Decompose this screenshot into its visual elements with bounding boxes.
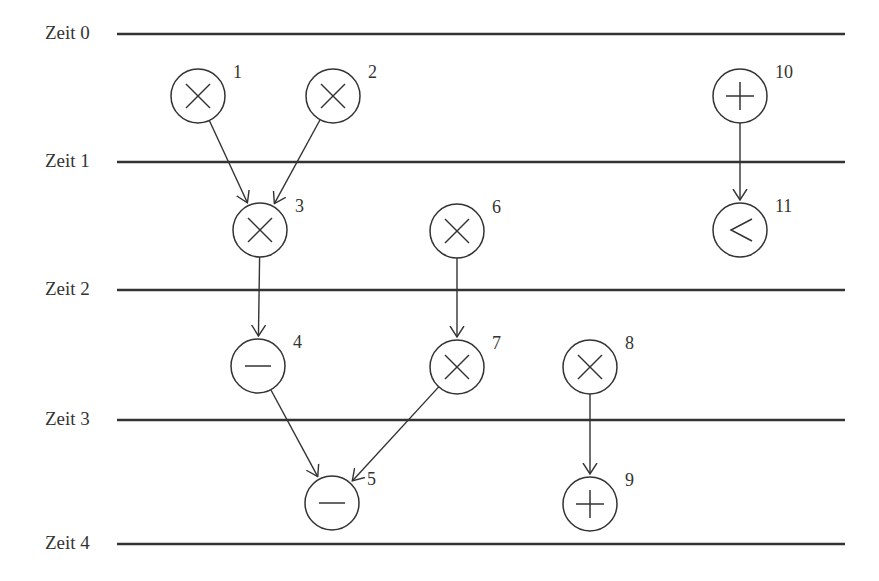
node-number: 9 bbox=[625, 471, 634, 489]
node-multiply bbox=[233, 203, 287, 257]
node-number: 6 bbox=[492, 198, 501, 216]
node-multiply bbox=[430, 340, 484, 394]
node-add bbox=[563, 477, 617, 531]
time-step-label: Zeit 4 bbox=[45, 533, 90, 552]
edges bbox=[209, 120, 740, 481]
node-number: 8 bbox=[625, 334, 634, 352]
node-less-than bbox=[713, 203, 767, 257]
time-step-label: Zeit 2 bbox=[45, 279, 90, 298]
node-subtract bbox=[305, 476, 359, 530]
node-number: 1 bbox=[233, 63, 242, 81]
node-number: 7 bbox=[492, 334, 501, 352]
node-number: 10 bbox=[775, 63, 793, 81]
node-multiply bbox=[430, 204, 484, 258]
node-number: 5 bbox=[367, 470, 376, 488]
scheduling-diagram bbox=[0, 0, 879, 581]
node-multiply bbox=[306, 69, 360, 123]
time-step-label: Zeit 1 bbox=[45, 151, 90, 170]
node-subtract bbox=[231, 339, 285, 393]
node-multiply bbox=[563, 340, 617, 394]
node-number: 4 bbox=[293, 333, 302, 351]
edge-arrow bbox=[258, 257, 259, 336]
edge-arrow bbox=[352, 387, 438, 481]
node-number: 11 bbox=[775, 197, 792, 215]
nodes bbox=[171, 69, 767, 531]
edge-arrow bbox=[271, 390, 318, 477]
time-step-label: Zeit 0 bbox=[45, 23, 90, 42]
node-number: 3 bbox=[295, 197, 304, 215]
node-add bbox=[713, 69, 767, 123]
node-number: 2 bbox=[368, 63, 377, 81]
time-step-label: Zeit 3 bbox=[45, 409, 90, 428]
node-multiply bbox=[171, 69, 225, 123]
